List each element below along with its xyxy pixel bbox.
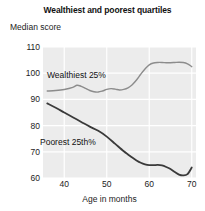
series-label-wealthiest: Wealthiest 25% — [47, 70, 106, 80]
x-tick-label: 40 — [52, 180, 76, 189]
x-axis-title: Age in months — [0, 194, 205, 204]
x-axis-ticks: 40506070 — [0, 0, 205, 211]
x-tick-label: 70 — [180, 180, 204, 189]
chart-figure: Wealthiest and poorest quartiles Median … — [0, 0, 205, 211]
x-tick-label: 60 — [137, 180, 161, 189]
x-tick-label: 50 — [95, 180, 119, 189]
series-label-poorest: Poorest 25th% — [40, 137, 96, 147]
